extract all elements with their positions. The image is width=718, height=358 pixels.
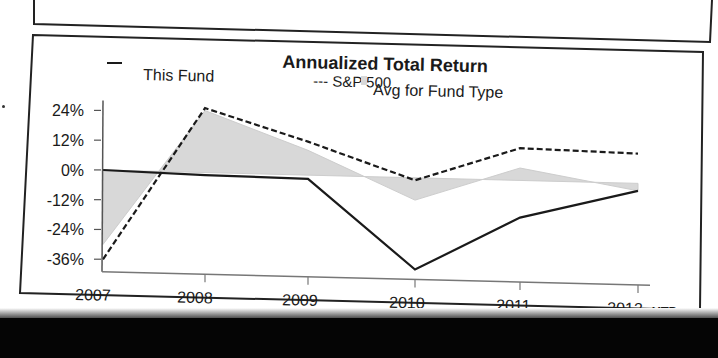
y-tick-label: -24% bbox=[47, 221, 84, 238]
x-axis-line bbox=[102, 272, 650, 286]
series-avg-fund-type-area bbox=[103, 111, 638, 245]
series-sp500-line bbox=[103, 108, 638, 259]
legend-swatch-avg bbox=[361, 76, 367, 85]
y-tick-label: 12% bbox=[52, 132, 84, 149]
y-tick-label: -36% bbox=[47, 251, 84, 268]
y-axis: 24%12%0%-12%-24%-36% bbox=[47, 101, 103, 272]
legend-label-avg: Avg for Fund Type bbox=[373, 81, 504, 101]
y-tick-label: 0% bbox=[61, 162, 84, 179]
y-axis-line bbox=[102, 101, 103, 272]
y-tick-label: -12% bbox=[47, 192, 84, 209]
x-tick-label: 2009 bbox=[282, 291, 318, 309]
x-tick-label: 2007 bbox=[75, 286, 111, 304]
x-tick-label: 2008 bbox=[177, 289, 213, 307]
legend-label-this-fund: This Fund bbox=[143, 66, 215, 85]
series-this-fund-line bbox=[103, 170, 638, 270]
dark-background-band bbox=[0, 318, 718, 358]
y-tick-label: 24% bbox=[52, 102, 84, 119]
